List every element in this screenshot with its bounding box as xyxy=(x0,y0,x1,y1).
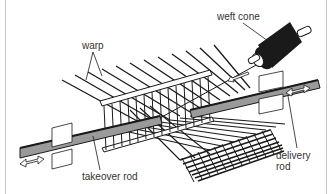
loom-diagram: warp weft cone takeover rod delivery rod xyxy=(0,0,331,194)
takeover-rod-leader xyxy=(93,136,100,170)
delivery-rod-leader xyxy=(288,96,297,148)
woven-fabric xyxy=(180,130,284,181)
delivery-rod-label-line2: rod xyxy=(276,162,290,172)
weft-cone-label: weft cone xyxy=(217,12,260,22)
delivery-rod-label-line1: delivery xyxy=(276,151,310,161)
takeover-rod-label: takeover rod xyxy=(82,172,138,182)
weft-cone-leader xyxy=(243,23,268,41)
weft-cone-shape xyxy=(247,22,312,72)
warp-label: warp xyxy=(82,41,104,51)
